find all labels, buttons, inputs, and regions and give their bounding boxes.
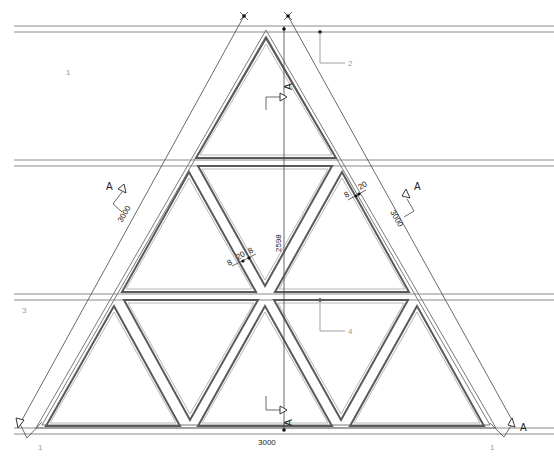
mullion-center-a: 8 bbox=[226, 257, 235, 267]
side-dimension-lines bbox=[22, 12, 512, 420]
mullion-right-a: 8 bbox=[343, 189, 352, 199]
section-marker-top[interactable]: A bbox=[266, 83, 294, 110]
grid-label-bottom-left: 1 bbox=[38, 443, 43, 452]
grid-label-bottom-right: 1 bbox=[490, 443, 495, 452]
leader-4: 4 bbox=[318, 298, 353, 336]
svg-text:A: A bbox=[283, 419, 294, 426]
height-dimension-text: 2598 bbox=[274, 234, 283, 252]
grid-label-3: 3 bbox=[22, 306, 27, 315]
svg-text:A: A bbox=[283, 83, 294, 90]
outer-frame bbox=[36, 30, 496, 428]
drawing-canvas: 1 3 1 1 2 4 bbox=[0, 0, 554, 456]
svg-text:A: A bbox=[106, 181, 113, 192]
grid-label-1: 1 bbox=[66, 68, 71, 77]
leader-2: 2 bbox=[318, 30, 353, 68]
grid-label-4: 4 bbox=[348, 327, 353, 336]
section-marker-right[interactable]: A bbox=[402, 181, 421, 217]
right-side-dimension-text: 3000 bbox=[388, 209, 405, 229]
svg-text:A: A bbox=[520, 422, 527, 433]
base-width-text: 3000 bbox=[258, 438, 276, 447]
left-side-dimension-text: 3000 bbox=[116, 204, 133, 224]
mullion-dimension-right: 8 20 bbox=[343, 179, 370, 200]
section-marker-bottom[interactable]: A bbox=[266, 396, 294, 426]
grid-label-2: 2 bbox=[348, 59, 353, 68]
glass-panes bbox=[46, 38, 484, 426]
svg-text:A: A bbox=[414, 181, 421, 192]
